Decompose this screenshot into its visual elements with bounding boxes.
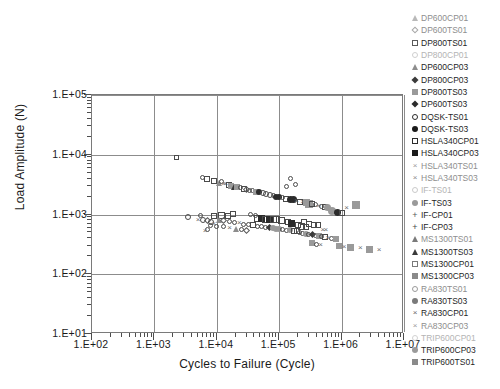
y-axis-title: Load Amplitude (N) xyxy=(13,77,27,237)
legend-item-dp800cp01[interactable]: DP800CP01 xyxy=(409,49,500,61)
data-point xyxy=(366,246,373,253)
legend-item-if-cp03[interactable]: +IF-CP03 xyxy=(409,221,500,233)
legend-item-dqsk-ts01[interactable]: DQSK-TS01 xyxy=(409,110,500,122)
data-point xyxy=(352,201,360,209)
legend-label: MS1300TS03 xyxy=(421,247,473,257)
x-tick-mark-minor xyxy=(151,333,152,337)
y-tick-mark-minor xyxy=(87,163,91,164)
legend-item-trip600cp03[interactable]: TRIP600CP03 xyxy=(409,344,500,356)
x-mark-icon: × xyxy=(409,309,421,318)
x-tick-mark-minor xyxy=(213,333,214,337)
legend-label: DP600CP01 xyxy=(421,13,468,23)
x-axis-tick-label: 1.E+06 xyxy=(311,338,371,350)
legend-item-dp600ts01[interactable]: DP600TS01 xyxy=(409,24,500,36)
legend-label: HSLA340TS03 xyxy=(421,173,478,183)
x-tick-mark-minor xyxy=(397,333,398,337)
y-tick-mark-minor xyxy=(87,160,91,161)
y-tick-mark-minor xyxy=(87,216,91,217)
legend-item-ms1300ts03[interactable]: MS1300TS03 xyxy=(409,246,500,258)
square-gray-icon xyxy=(409,272,421,281)
x-axis-tick-label: 1.E+03 xyxy=(123,338,183,350)
legend-item-dp600cp01[interactable]: DP600CP01 xyxy=(409,12,500,24)
legend-item-dqsk-ts03[interactable]: DQSK-TS03 xyxy=(409,123,500,135)
legend-label: DQSK-TS01 xyxy=(421,112,468,122)
y-tick-mark-minor xyxy=(87,185,91,186)
legend: DP600CP01DP600TS01DP800TS01DP800CP01DP60… xyxy=(409,12,500,369)
x-tick-mark-minor xyxy=(129,333,130,337)
circle-filled-icon xyxy=(409,124,421,133)
legend-item-trip600ts01[interactable]: TRIP600TS01 xyxy=(409,356,500,368)
data-point xyxy=(233,226,239,232)
data-point xyxy=(347,244,354,251)
square-gray-icon xyxy=(409,358,421,367)
x-axis-tick-label: 1.E+05 xyxy=(248,338,308,350)
legend-item-ra830cp03[interactable]: ×RA830CP03 xyxy=(409,319,500,331)
legend-item-hsla340ts01[interactable]: ×HSLA340TS01 xyxy=(409,160,500,172)
y-tick-mark-minor xyxy=(87,245,91,246)
legend-label: DP800CP03 xyxy=(421,75,468,85)
legend-label: TRIP600CP03 xyxy=(421,345,476,355)
x-tick-mark-minor xyxy=(370,333,371,337)
gridline-horizontal xyxy=(92,215,402,216)
y-tick-mark-minor xyxy=(87,112,91,113)
legend-item-ms1300cp01[interactable]: MS1300CP01 xyxy=(409,258,500,270)
circle-open-icon xyxy=(409,333,421,342)
legend-item-hsla340cp01[interactable]: HSLA340CP01 xyxy=(409,135,500,147)
y-tick-mark-minor xyxy=(87,125,91,126)
y-tick-mark-minor xyxy=(87,283,91,284)
y-tick-mark-minor xyxy=(87,118,91,119)
data-point xyxy=(230,211,236,217)
legend-item-dp800ts01[interactable]: DP800TS01 xyxy=(409,37,500,49)
legend-item-if-cp01[interactable]: +IF-CP01 xyxy=(409,209,500,221)
x-mark-icon: × xyxy=(409,161,421,170)
x-tick-mark-minor xyxy=(121,333,122,337)
legend-item-if-ts01[interactable]: IF-TS01 xyxy=(409,184,500,196)
legend-item-ra830ts01[interactable]: RA830TS01 xyxy=(409,283,500,295)
legend-item-dp800ts03[interactable]: DP800TS03 xyxy=(409,86,500,98)
plus-mark-icon: + xyxy=(409,210,421,219)
legend-item-hsla340ts03[interactable]: ×HSLA340TS03 xyxy=(409,172,500,184)
data-point: × xyxy=(323,227,329,233)
data-point: × xyxy=(344,205,350,211)
y-tick-mark-minor xyxy=(87,276,91,277)
legend-item-trip600cp01[interactable]: TRIP600CP01 xyxy=(409,332,500,344)
legend-label: DP800TS03 xyxy=(421,87,467,97)
legend-item-dp800cp03[interactable]: DP800CP03 xyxy=(409,73,500,85)
y-tick-mark-minor xyxy=(87,291,91,292)
data-point xyxy=(253,213,258,218)
x-tick-mark-minor xyxy=(316,333,317,337)
x-tick-mark-minor xyxy=(147,333,148,337)
x-axis-tick-label: 1.E+02 xyxy=(61,338,121,350)
legend-item-dp600cp03[interactable]: DP600CP03 xyxy=(409,61,500,73)
legend-item-ms1300ts01[interactable]: MS1300TS01 xyxy=(409,233,500,245)
x-tick-mark-minor xyxy=(246,333,247,337)
gridline-vertical xyxy=(154,95,155,332)
square-filled-icon xyxy=(409,149,421,158)
y-tick-mark-minor xyxy=(87,255,91,256)
x-tick-mark-minor xyxy=(272,333,273,337)
data-point xyxy=(284,184,289,189)
legend-label: IF-TS03 xyxy=(421,198,452,208)
x-tick-mark-minor xyxy=(183,333,184,337)
circle-open-icon xyxy=(409,284,421,293)
y-axis-tick-label: 1.E+03 xyxy=(52,209,87,219)
data-point: × xyxy=(376,247,382,253)
legend-label: DP800TS01 xyxy=(421,38,467,48)
y-tick-mark-minor xyxy=(87,223,91,224)
legend-item-ra830ts03[interactable]: RA830TS03 xyxy=(409,295,500,307)
legend-item-ms1300cp03[interactable]: MS1300CP03 xyxy=(409,270,500,282)
x-tick-mark-minor xyxy=(331,333,332,337)
diamond-filled-icon xyxy=(409,100,421,109)
legend-item-dp600ts03[interactable]: DP600TS03 xyxy=(409,98,500,110)
legend-item-if-ts03[interactable]: IF-TS03 xyxy=(409,196,500,208)
x-tick-mark-minor xyxy=(206,333,207,337)
legend-item-ra830cp01[interactable]: ×RA830CP01 xyxy=(409,307,500,319)
gridline-vertical xyxy=(404,95,405,332)
circle-open-icon xyxy=(409,186,421,195)
x-tick-mark-minor xyxy=(308,333,309,337)
legend-label: DP800CP01 xyxy=(421,50,468,60)
legend-item-hsla340cp03[interactable]: HSLA340CP03 xyxy=(409,147,500,159)
circle-open-icon xyxy=(409,112,421,121)
data-point xyxy=(288,176,293,181)
x-tick-mark-minor xyxy=(269,333,270,337)
